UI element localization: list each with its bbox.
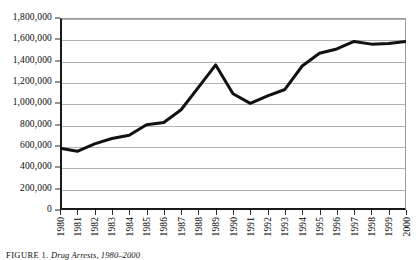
x-axis-tick-label: 1987 — [177, 217, 187, 236]
x-axis-tick — [147, 210, 148, 215]
x-axis-tick — [302, 210, 303, 215]
x-axis-tick-label: 1988 — [194, 217, 204, 236]
x-axis-tick-label: 1991 — [246, 217, 256, 236]
y-axis-tick-label: 1,800,000 — [13, 13, 52, 23]
x-axis-tick-label: 1990 — [229, 217, 239, 236]
x-axis-tick-label: 1998 — [367, 217, 377, 236]
x-axis-tick-label: 2000 — [402, 217, 412, 236]
y-axis-tick-label: 1,400,000 — [13, 56, 52, 66]
x-axis-tick-label: 1983 — [107, 217, 117, 236]
y-axis-tick-label: 1,000,000 — [13, 99, 52, 109]
y-axis-tick-label: 600,000 — [20, 141, 52, 151]
x-axis-tick-label: 1992 — [263, 217, 273, 236]
figure-caption: FIGURE 1. Drug Arrests, 1980–2000 — [6, 250, 140, 260]
x-axis-tick — [164, 210, 165, 215]
x-axis-tick — [233, 210, 234, 215]
data-line-chart — [60, 18, 406, 210]
x-axis-tick-label: 1995 — [315, 217, 325, 236]
x-axis-tick-label: 1996 — [332, 217, 342, 236]
y-axis: 0200,000400,000600,000800,0001,000,0001,… — [0, 18, 60, 210]
x-axis-tick — [77, 210, 78, 215]
x-axis-tick — [406, 210, 407, 215]
x-axis-tick — [337, 210, 338, 215]
x-axis-tick-label: 1981 — [73, 217, 83, 236]
x-axis-tick-label: 1997 — [350, 217, 360, 236]
x-axis-tick — [285, 210, 286, 215]
y-axis-tick-label: 200,000 — [20, 184, 52, 194]
x-axis-tick — [216, 210, 217, 215]
y-axis-tick-label: 400,000 — [20, 163, 52, 173]
caption-title: Drug Arrests, 1980–2000 — [51, 250, 140, 260]
x-axis-tick — [371, 210, 372, 215]
x-axis-labels: 1980198119821983198419851986198719881989… — [60, 217, 406, 249]
x-axis-tick — [129, 210, 130, 215]
y-axis-tick-label: 0 — [47, 205, 52, 215]
x-axis-tick-label: 1994 — [298, 217, 308, 236]
x-axis-tick — [181, 210, 182, 215]
x-axis-tick — [60, 210, 61, 215]
x-axis-tick — [112, 210, 113, 215]
x-axis-tick-label: 1984 — [125, 217, 135, 236]
x-axis-tick-label: 1993 — [280, 217, 290, 236]
x-axis-tick-label: 1985 — [142, 217, 152, 236]
y-axis-tick-label: 1,200,000 — [13, 77, 52, 87]
x-axis-tick — [320, 210, 321, 215]
y-axis-tick-label: 1,600,000 — [13, 35, 52, 45]
x-axis-tick-label: 1982 — [90, 217, 100, 236]
x-axis-tick — [354, 210, 355, 215]
x-axis-tick-label: 1989 — [211, 217, 221, 236]
x-axis-tick-label: 1980 — [56, 217, 66, 236]
x-axis-tick — [95, 210, 96, 215]
series-line — [60, 41, 406, 151]
x-axis-tick-label: 1999 — [384, 217, 394, 236]
caption-label: FIGURE 1. — [6, 250, 49, 260]
plot-area — [60, 18, 406, 210]
figure-container: 0200,000400,000600,000800,0001,000,0001,… — [0, 0, 416, 260]
x-axis-ticks — [60, 210, 406, 216]
x-axis-tick — [250, 210, 251, 215]
y-axis-tick-label: 800,000 — [20, 120, 52, 130]
x-axis-tick — [198, 210, 199, 215]
x-axis-tick-label: 1986 — [159, 217, 169, 236]
x-axis-tick — [389, 210, 390, 215]
x-axis-tick — [268, 210, 269, 215]
